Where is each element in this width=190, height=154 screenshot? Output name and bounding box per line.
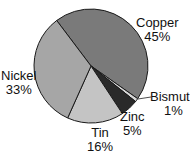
label-bismuth: Bismuth 1%	[150, 90, 190, 118]
label-nickel-name: Nickel	[1, 69, 36, 83]
label-nickel: Nickel 33%	[1, 69, 36, 97]
label-copper-pct: 45%	[136, 30, 179, 44]
label-zinc-name: Zinc	[120, 110, 145, 124]
label-tin-pct: 16%	[87, 140, 113, 154]
label-zinc: Zinc 5%	[120, 110, 145, 138]
label-tin: Tin 16%	[87, 126, 113, 154]
label-tin-name: Tin	[87, 126, 113, 140]
label-nickel-pct: 33%	[1, 83, 36, 97]
label-copper: Copper 45%	[136, 16, 179, 44]
pie-slices	[34, 9, 148, 123]
label-bismuth-name: Bismuth	[150, 90, 190, 104]
label-bismuth-pct: 1%	[150, 104, 190, 118]
label-zinc-pct: 5%	[120, 124, 145, 138]
label-copper-name: Copper	[136, 16, 179, 30]
